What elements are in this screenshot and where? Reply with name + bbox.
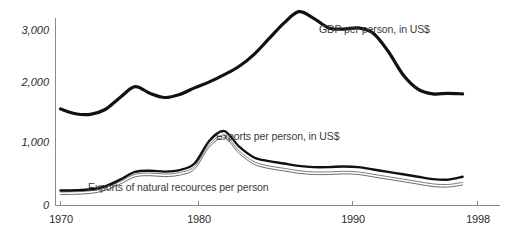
y-tick-label-2000: 2,000 xyxy=(20,76,49,88)
y-tick-label-1000: 1,000 xyxy=(21,136,49,148)
x-tick-label-1990: 1990 xyxy=(341,213,365,225)
line-chart: 3,000 2,000 1,000 0 1970 1980 1990 1998 … xyxy=(0,0,505,233)
series-group xyxy=(61,12,463,195)
annotation-exports-per-person: Exports per person, in US$ xyxy=(216,130,340,142)
chart-page: 3,000 2,000 1,000 0 1970 1980 1990 1998 … xyxy=(0,0,505,233)
x-tick-label-1980: 1980 xyxy=(187,213,211,225)
x-tick-label-1970: 1970 xyxy=(49,213,73,225)
x-tick-label-1998: 1998 xyxy=(466,213,490,225)
annotation-gdp-per-person: GDP per person, in US$ xyxy=(319,23,430,35)
annotation-natural-resources: Exports of natural recources per person xyxy=(88,181,269,193)
y-tick-label-0: 0 xyxy=(43,199,50,211)
y-tick-label-3000: 3,000 xyxy=(21,24,49,36)
